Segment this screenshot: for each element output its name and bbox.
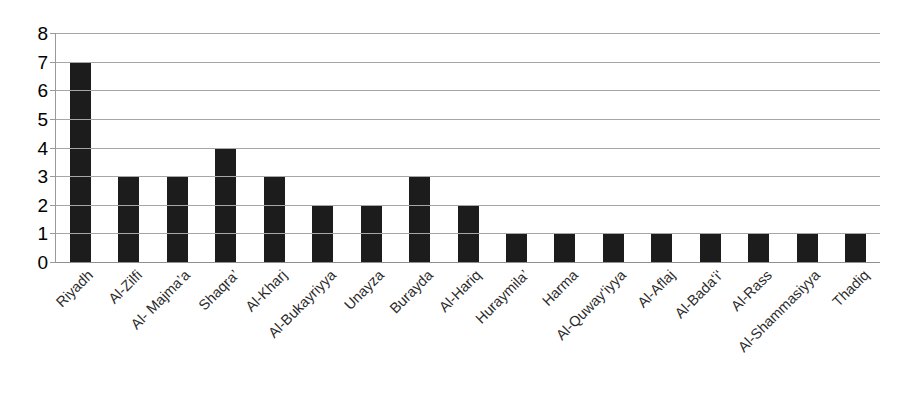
- x-axis-category-label: Al-Aflaj: [635, 264, 682, 311]
- x-axis-category-label: Al-Shammasiyya: [736, 264, 827, 355]
- bar[interactable]: [118, 176, 139, 262]
- bar[interactable]: [264, 176, 285, 262]
- plot-area: [56, 33, 880, 262]
- bar[interactable]: [748, 233, 769, 262]
- bar[interactable]: [167, 176, 188, 262]
- y-axis-tick-mark: [50, 62, 56, 63]
- x-axis-category-label: Shaqra’: [196, 264, 245, 313]
- y-axis-tick-mark: [50, 176, 56, 177]
- y-axis-tick-labels: 012345678: [22, 24, 48, 264]
- bar[interactable]: [797, 233, 818, 262]
- bar[interactable]: [651, 233, 672, 262]
- x-axis-category-label: Unayza: [342, 264, 391, 313]
- y-axis-tick-label: 5: [22, 109, 48, 128]
- bar[interactable]: [554, 233, 575, 262]
- x-axis-category-label-text: Thadiq: [830, 264, 875, 309]
- x-axis-category-label-text: Al-Aflaj: [635, 264, 682, 311]
- y-axis-tick-label: 1: [22, 224, 48, 243]
- x-axis-category-labels: RiyadhAl-ZilfiAl- Majma’aShaqra’Al-Kharj…: [56, 264, 880, 407]
- y-axis-tick-label: 3: [22, 167, 48, 186]
- y-axis-tick-mark: [50, 205, 56, 206]
- x-axis-category-label: Riyadh: [54, 264, 100, 310]
- x-axis-category-label-text: Al-Shammasiyya: [736, 264, 827, 355]
- y-axis-tick-label: 6: [22, 81, 48, 100]
- y-axis-tick-label: 2: [22, 195, 48, 214]
- x-axis-category-label: Al-Zilfi: [106, 264, 149, 307]
- x-axis-category-label-text: Harma: [540, 264, 585, 309]
- bar[interactable]: [845, 233, 866, 262]
- x-axis-category-label: Burayda: [387, 264, 439, 316]
- y-axis-tick-label: 4: [22, 138, 48, 157]
- gridline: [56, 62, 880, 63]
- x-axis-category-label: Thadiq: [830, 264, 875, 309]
- bar[interactable]: [700, 233, 721, 262]
- gridline: [56, 233, 880, 234]
- x-axis-category-label-text: Al-Zilfi: [106, 264, 149, 307]
- y-axis-tick-mark: [50, 233, 56, 234]
- gridline: [56, 119, 880, 120]
- y-axis-tick-mark: [50, 148, 56, 149]
- gridline: [56, 148, 880, 149]
- gridline: [56, 176, 880, 177]
- bar[interactable]: [409, 176, 430, 262]
- x-axis-category-label: Al-Bada‘i‘: [672, 264, 729, 321]
- gridline: [56, 205, 880, 206]
- bar[interactable]: [70, 62, 91, 262]
- bar[interactable]: [603, 233, 624, 262]
- gridline: [56, 262, 880, 263]
- y-axis-tick-mark: [50, 33, 56, 34]
- y-axis-tick-label: 7: [22, 52, 48, 71]
- x-axis-category-label-text: Riyadh: [54, 264, 100, 310]
- x-axis-category-label-text: Unayza: [342, 264, 391, 313]
- y-axis-tick-mark: [50, 90, 56, 91]
- y-axis-tick-label: 0: [22, 253, 48, 272]
- x-axis-category-label-text: Burayda: [387, 264, 439, 316]
- bar-chart: 012345678 RiyadhAl-ZilfiAl- Majma’aShaqr…: [0, 0, 911, 407]
- x-axis-category-label-text: Shaqra’: [196, 264, 245, 313]
- x-axis-category-label: Harma: [540, 264, 585, 309]
- gridline: [56, 33, 880, 34]
- bar[interactable]: [506, 233, 527, 262]
- y-axis-tick-mark: [50, 119, 56, 120]
- y-axis-tick-label: 8: [22, 24, 48, 43]
- gridline: [56, 90, 880, 91]
- x-axis-category-label-text: Al-Bada‘i‘: [672, 264, 729, 321]
- y-axis-tick-mark: [50, 262, 56, 263]
